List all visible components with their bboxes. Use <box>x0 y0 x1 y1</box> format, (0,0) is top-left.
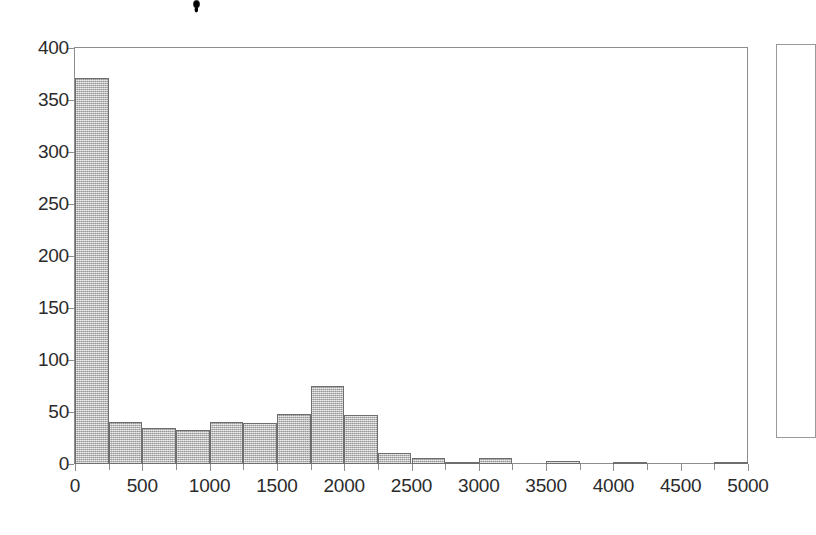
histogram-bar <box>75 78 109 464</box>
histogram-bar <box>243 423 277 464</box>
x-axis-tick <box>546 464 547 471</box>
x-axis-tick <box>75 464 76 471</box>
histogram-bar <box>546 461 580 464</box>
x-axis-tick-label: 2000 <box>323 476 364 496</box>
histogram-bar <box>613 462 647 464</box>
x-axis-tick-label: 0 <box>70 476 80 496</box>
y-axis-tick-label: 50 <box>48 402 69 421</box>
x-axis-tick-label: 4500 <box>660 476 701 496</box>
x-axis-minor-tick <box>243 464 244 470</box>
x-axis-tick-label: 2500 <box>391 476 432 496</box>
x-axis-minor-tick <box>714 464 715 470</box>
x-axis-minor-tick <box>176 464 177 470</box>
histogram-bar <box>412 458 446 464</box>
x-axis-minor-tick <box>512 464 513 470</box>
x-axis-tick <box>681 464 682 471</box>
y-axis-tick-label: 100 <box>38 350 69 369</box>
histogram-bar <box>142 428 176 464</box>
histogram-bar <box>210 422 244 464</box>
y-axis-tick-label: 200 <box>38 246 69 265</box>
x-axis-tick <box>210 464 211 471</box>
y-axis-tick-label: 250 <box>38 194 69 213</box>
y-axis-tick-label: 400 <box>38 38 69 57</box>
x-axis-minor-tick <box>378 464 379 470</box>
histogram-bar <box>311 386 345 464</box>
x-axis-tick-label: 5000 <box>727 476 768 496</box>
x-axis-minor-tick <box>109 464 110 470</box>
x-axis-tick-label: 500 <box>127 476 158 496</box>
y-axis-tick-label: 150 <box>38 298 69 317</box>
histogram-bars <box>75 48 748 464</box>
histogram-bar <box>445 462 479 464</box>
x-axis-tick <box>344 464 345 471</box>
x-axis-tick-label: 3500 <box>525 476 566 496</box>
histogram-bar <box>479 458 513 464</box>
x-axis-tick <box>748 464 749 471</box>
y-axis-tick-label: 300 <box>38 142 69 161</box>
histogram-bar <box>176 430 210 464</box>
x-axis-tick <box>277 464 278 471</box>
x-axis-tick-label: 4000 <box>593 476 634 496</box>
histogram-bar <box>109 422 143 464</box>
x-axis-minor-tick <box>580 464 581 470</box>
x-axis-tick-label: 3000 <box>458 476 499 496</box>
x-axis-tick-label: 1000 <box>189 476 230 496</box>
x-axis-tick <box>142 464 143 471</box>
histogram-bar <box>277 414 311 464</box>
y-axis-tick-label: 0 <box>59 454 69 473</box>
x-axis-minor-tick <box>445 464 446 470</box>
x-axis-minor-tick <box>311 464 312 470</box>
x-axis-tick <box>412 464 413 471</box>
scan-speck-icon <box>192 0 201 13</box>
y-axis-tick-label: 350 <box>38 90 69 109</box>
x-axis-tick <box>479 464 480 471</box>
x-axis-tick-label: 1500 <box>256 476 297 496</box>
legend-box <box>776 44 816 438</box>
histogram-bar <box>378 453 412 464</box>
x-axis-tick <box>613 464 614 471</box>
histogram-bar <box>714 462 748 464</box>
x-axis-minor-tick <box>647 464 648 470</box>
histogram-bar <box>344 415 378 464</box>
